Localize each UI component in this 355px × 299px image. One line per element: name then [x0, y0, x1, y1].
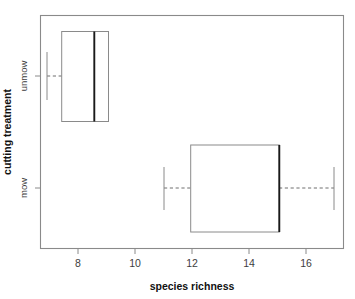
x-tick-label-16: 16 [300, 257, 312, 269]
box-group-mow [164, 145, 334, 232]
x-tick-label-10: 10 [129, 257, 141, 269]
x-tick-label-14: 14 [243, 257, 255, 269]
y-axis-title: cutting treatment [1, 89, 13, 175]
x-axis-tick-labels: 8 10 12 14 16 [75, 257, 312, 269]
x-tick-label-8: 8 [75, 257, 81, 269]
y-axis-ticks [35, 76, 40, 188]
x-axis-ticks [78, 249, 306, 254]
x-axis-title: species richness [150, 280, 235, 292]
box-unmow [62, 32, 109, 122]
y-axis-tick-labels: unmow mow [18, 61, 29, 198]
y-tick-label-unmow: unmow [18, 61, 29, 92]
x-tick-label-12: 12 [186, 257, 198, 269]
boxplot-chart: 8 10 12 14 16 species richness unmow mow… [0, 0, 355, 299]
boxplot-svg: 8 10 12 14 16 species richness unmow mow… [0, 0, 355, 299]
box-mow [191, 145, 280, 232]
box-group-unmow [47, 32, 109, 122]
y-tick-label-mow: mow [18, 178, 29, 198]
